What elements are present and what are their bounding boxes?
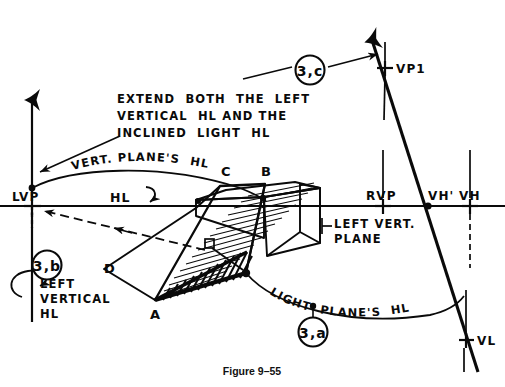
left-vert-plane-line2: PLANE <box>334 232 382 246</box>
figure-canvas: 3,c 3,b 3,a EXTEND BOTH THE LEFT VERTICA… <box>0 0 505 387</box>
left-vertical-hl-line1: LEFT <box>40 277 75 291</box>
hl-pointer-group <box>146 187 155 202</box>
label-rvp: RVP <box>366 189 397 203</box>
box-front-right-face <box>264 188 320 256</box>
vh-prime-dot <box>424 202 431 209</box>
instruction-line-1: EXTEND BOTH THE LEFT <box>117 92 310 106</box>
vert-planes-hl-label-group: VERT. PLANE'S HL <box>0 0 271 181</box>
vert-planes-hl-curve <box>32 171 240 188</box>
instruction-leader-upper <box>243 67 292 79</box>
vl-plus-mark <box>459 333 474 348</box>
callout-3b[interactable]: 3,b <box>33 251 62 280</box>
box-right-end-face <box>300 184 320 243</box>
label-vp1: VP1 <box>396 62 426 76</box>
perspective-drawing: 3,c 3,b 3,a EXTEND BOTH THE LEFT VERTICA… <box>0 0 505 387</box>
box-top-dot <box>260 195 266 201</box>
callout-3a-label: 3,a <box>299 325 327 341</box>
label-vl: VL <box>477 334 496 348</box>
plane-corner-dot <box>242 269 250 277</box>
hl-pointer-hook <box>146 187 155 202</box>
instruction-line-3: INCLINED LIGHT HL <box>117 126 270 140</box>
lvp-dashed-leader-mid-arrow <box>114 228 132 233</box>
box-left-corner-dot <box>195 198 201 204</box>
inclined-plane-group <box>104 183 314 300</box>
figure-caption: Figure 9–55 <box>223 365 282 377</box>
callout-3c-label: 3,c <box>297 63 324 79</box>
vertex-label-b: B <box>261 164 272 179</box>
vp1-to-rvp-ref <box>384 76 385 120</box>
left-vert-plane-leader-group <box>322 218 332 234</box>
left-vertical-hl-line2: VERTICAL <box>40 292 111 306</box>
left-vert-plane-line1: LEFT VERT. <box>334 217 415 231</box>
label-lvp: LVP <box>12 190 39 204</box>
left-vertical-hl-line3: HL <box>40 307 59 321</box>
vertex-label-c: C <box>221 164 232 179</box>
label-hl: HL <box>110 190 131 205</box>
label-vh-prime: VH' <box>428 189 454 203</box>
inclined-plane-hatching <box>160 183 314 297</box>
callout-3c[interactable]: 3,c <box>296 56 325 85</box>
callout-3b-label: 3,b <box>33 258 61 274</box>
callout-3c-leader <box>328 54 378 67</box>
vertex-label-d: D <box>104 261 116 276</box>
label-vh: VH <box>459 189 481 203</box>
vert-planes-hl-label: VERT. PLANE'S HL <box>0 0 271 181</box>
callout-3a[interactable]: 3,a <box>299 318 328 347</box>
vertex-label-a: A <box>150 307 161 322</box>
instruction-line-2: VERTICAL HL AND THE <box>117 109 287 123</box>
